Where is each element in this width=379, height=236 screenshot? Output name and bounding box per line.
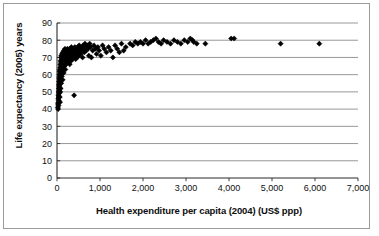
- y-tick-label: 10: [42, 156, 52, 166]
- data-point: [317, 41, 322, 46]
- plot-area-wrapper: 01,0002,0003,0004,0005,0006,0007,000 010…: [0, 0, 379, 236]
- y-tick-label: 80: [42, 36, 52, 46]
- x-tick-label: 5,000: [261, 183, 284, 193]
- x-tick-label: 4,000: [218, 183, 241, 193]
- data-point: [278, 41, 283, 46]
- y-tick-label: 30: [42, 122, 52, 132]
- data-point: [110, 55, 115, 60]
- x-tick-labels-group: 01,0002,0003,0004,0005,0006,0007,000: [54, 183, 369, 193]
- data-point: [119, 41, 124, 46]
- x-tick-label: 6,000: [304, 183, 327, 193]
- y-tick-label: 60: [42, 70, 52, 80]
- x-tick-label: 3,000: [175, 183, 198, 193]
- y-tick-label: 90: [42, 18, 52, 28]
- y-tick-label: 40: [42, 104, 52, 114]
- data-points-group: [55, 36, 322, 112]
- data-point: [72, 93, 77, 98]
- scatter-plot-svg: 01,0002,0003,0004,0005,0006,0007,000 010…: [0, 0, 379, 236]
- y-tick-label: 50: [42, 87, 52, 97]
- y-axis-title: Life expectancy (2005) years: [13, 6, 24, 166]
- y-tick-label: 70: [42, 53, 52, 63]
- y-tick-labels-group: 0102030405060708090: [42, 18, 52, 183]
- y-tick-label: 20: [42, 139, 52, 149]
- data-point: [203, 41, 208, 46]
- x-tick-label: 2,000: [132, 183, 155, 193]
- chart-figure: 01,0002,0003,0004,0005,0006,0007,000 010…: [0, 0, 379, 236]
- x-tick-label: 0: [54, 183, 59, 193]
- x-tick-label: 1,000: [89, 183, 112, 193]
- y-tick-label: 0: [47, 173, 52, 183]
- x-axis-title: Health expenditure per capita (2004) (US…: [34, 205, 364, 216]
- x-tick-label: 7,000: [347, 183, 370, 193]
